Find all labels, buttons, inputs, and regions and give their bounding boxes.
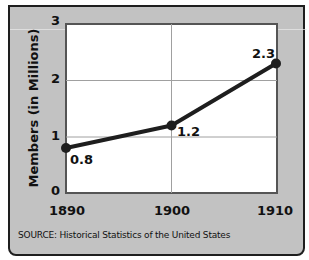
x-tick-1910: 1910 [250, 203, 300, 218]
data-point-1900 [167, 121, 177, 131]
source-note: SOURCE: Historical Statistics of the Uni… [18, 230, 230, 240]
y-tick-0: 0 [46, 183, 60, 198]
data-label-1890: 0.8 [70, 152, 93, 167]
y-axis-label: Members (in Millions) [26, 28, 46, 188]
x-tick-1890: 1890 [42, 203, 92, 218]
y-tick-2: 2 [46, 71, 60, 86]
y-tick-3: 3 [46, 13, 60, 28]
y-tick-1: 1 [46, 128, 60, 143]
x-tick-1900: 1900 [147, 203, 197, 218]
data-label-1910: 2.3 [252, 46, 275, 61]
data-label-1900: 1.2 [177, 124, 200, 139]
